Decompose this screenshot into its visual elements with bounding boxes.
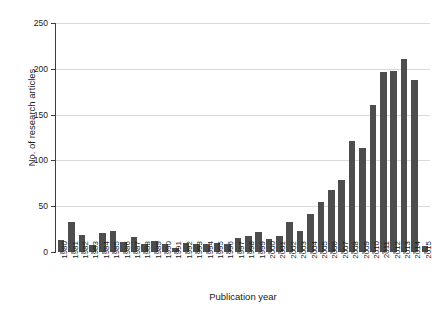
bar-slot (118, 23, 128, 252)
bar-chart-figure: No. of research articles 050100150200250… (0, 0, 440, 311)
y-tick-label: 250 (4, 18, 48, 28)
bar (349, 141, 356, 252)
x-tick-slot: 1987 (129, 254, 139, 290)
x-tick-slot: 1989 (150, 254, 160, 290)
y-tick-label: 150 (4, 110, 48, 120)
y-tick-label: 0 (4, 247, 48, 257)
x-tick-slot: 2006 (326, 254, 336, 290)
x-tick-slot: 1996 (222, 254, 232, 290)
bar-slot (316, 23, 326, 252)
x-tick-slot: 2002 (285, 254, 295, 290)
bar-slot (347, 23, 357, 252)
bar-slot (399, 23, 409, 252)
bar-slot (409, 23, 419, 252)
x-tick-slot: 2013 (399, 254, 409, 290)
bar-slot (253, 23, 263, 252)
x-tick-slot: 2007 (337, 254, 347, 290)
bar-slot (98, 23, 108, 252)
x-tick-slot: 2000 (264, 254, 274, 290)
x-tick-slot: 1993 (191, 254, 201, 290)
bar-slot (233, 23, 243, 252)
bar (380, 72, 387, 252)
bar-slot (66, 23, 76, 252)
bar-slot (326, 23, 336, 252)
x-tick-slot: 1986 (118, 254, 128, 290)
bar (390, 71, 397, 252)
x-tick-slot: 1983 (87, 254, 97, 290)
y-tick-label: 100 (4, 155, 48, 165)
bar-slot (295, 23, 305, 252)
bar (411, 80, 418, 252)
x-tick-slot: 1980 (56, 254, 66, 290)
bar-slot (368, 23, 378, 252)
x-tick-slot: 2008 (347, 254, 357, 290)
bar-slot (420, 23, 430, 252)
x-tick-slot: 2010 (368, 254, 378, 290)
x-axis-ticks: 1980198119821983198419851986198719881989… (56, 254, 430, 290)
bar-slot (222, 23, 232, 252)
x-tick-label: 2015 (424, 241, 433, 271)
bar-slot (274, 23, 284, 252)
x-tick-slot: 1982 (77, 254, 87, 290)
bar-slot (357, 23, 367, 252)
bar-slot (264, 23, 274, 252)
bar-slot (170, 23, 180, 252)
y-tick-label: 50 (4, 201, 48, 211)
y-tick-mark (51, 252, 56, 253)
x-tick-slot: 2004 (305, 254, 315, 290)
bar-slot (191, 23, 201, 252)
bar-slot (139, 23, 149, 252)
x-tick-slot: 2011 (378, 254, 388, 290)
bar-slot (181, 23, 191, 252)
bar-slot (129, 23, 139, 252)
x-tick-slot: 1995 (212, 254, 222, 290)
bar-slot (150, 23, 160, 252)
bar (401, 59, 408, 252)
bar-slot (160, 23, 170, 252)
bar-slot (201, 23, 211, 252)
x-tick-slot: 1984 (98, 254, 108, 290)
bar-slot (87, 23, 97, 252)
bar (370, 105, 377, 252)
x-tick-slot: 2015 (420, 254, 430, 290)
bar-slot (305, 23, 315, 252)
bar-slot (77, 23, 87, 252)
bar (359, 148, 366, 252)
x-tick-slot: 1999 (253, 254, 263, 290)
bar-slot (243, 23, 253, 252)
x-tick-slot: 1988 (139, 254, 149, 290)
bar-series (56, 23, 430, 252)
x-tick-slot: 2001 (274, 254, 284, 290)
x-tick-slot: 1985 (108, 254, 118, 290)
x-axis-title: Publication year (56, 291, 430, 302)
bar-slot (56, 23, 66, 252)
bar-slot (337, 23, 347, 252)
bar-slot (389, 23, 399, 252)
x-tick-slot: 1992 (181, 254, 191, 290)
x-tick-slot: 1990 (160, 254, 170, 290)
x-tick-slot: 2009 (357, 254, 367, 290)
bar-slot (378, 23, 388, 252)
x-tick-slot: 1997 (233, 254, 243, 290)
x-tick-slot: 1998 (243, 254, 253, 290)
x-tick-slot: 1994 (201, 254, 211, 290)
x-tick-slot: 1981 (66, 254, 76, 290)
x-tick-slot: 2003 (295, 254, 305, 290)
x-tick-slot: 2012 (389, 254, 399, 290)
x-tick-slot: 2005 (316, 254, 326, 290)
y-tick-label: 200 (4, 64, 48, 74)
bar-slot (108, 23, 118, 252)
x-tick-slot: 2014 (409, 254, 419, 290)
bar-slot (285, 23, 295, 252)
x-tick-slot: 1991 (170, 254, 180, 290)
bar-slot (212, 23, 222, 252)
